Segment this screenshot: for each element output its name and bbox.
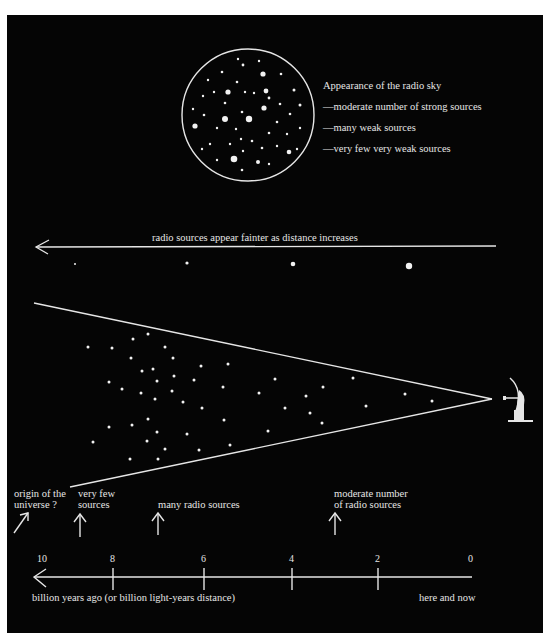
tick-label-2: 2 bbox=[375, 553, 380, 565]
tick-label-10: 10 bbox=[37, 553, 47, 565]
brightness-sample-dots bbox=[74, 261, 412, 269]
origin-label-line2: universe ? bbox=[14, 499, 57, 511]
radio-sky-circle bbox=[182, 49, 314, 181]
many-label: many radio sources bbox=[158, 499, 240, 511]
tick-label-6: 6 bbox=[201, 553, 206, 565]
tick-label-4: 4 bbox=[289, 553, 294, 565]
radio-telescope-icon bbox=[503, 378, 533, 421]
timeline-axis-label: billion years ago (or billion light-year… bbox=[32, 592, 235, 604]
timeline-axis bbox=[34, 568, 472, 590]
observation-cone bbox=[34, 303, 492, 487]
sky-legend-item-weak: —many weak sources bbox=[323, 122, 416, 134]
tick-label-0: 0 bbox=[468, 553, 473, 565]
moderate-label-line2: of radio sources bbox=[334, 499, 401, 511]
sky-legend-item-strong: —moderate number of strong sources bbox=[323, 101, 482, 113]
annotation-arrows bbox=[14, 513, 341, 537]
very-few-label-line2: sources bbox=[78, 499, 110, 511]
tick-label-8: 8 bbox=[110, 553, 115, 565]
sky-legend-title: Appearance of the radio sky bbox=[323, 80, 441, 92]
timeline-end-label: here and now bbox=[419, 592, 476, 604]
sky-legend-item-very-weak: —very few very weak sources bbox=[323, 143, 451, 155]
fainter-arrow-label: radio sources appear fainter as distance… bbox=[152, 232, 358, 244]
diagram-graphics bbox=[0, 0, 552, 638]
